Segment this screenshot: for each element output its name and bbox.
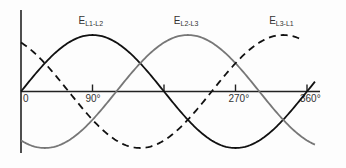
x-tick-label: 90° [86, 93, 101, 104]
x-tick-label: 360° [300, 93, 321, 104]
three-phase-waveform-diagram: 090°270°360° EL1-L2EL2-L3EL3-L1 [0, 0, 346, 168]
series-label: EL1-L2 [79, 15, 104, 27]
series-label: EL3-L1 [269, 15, 294, 27]
x-tick-label: 270° [229, 93, 250, 104]
x-tick-label: 0 [23, 93, 29, 104]
series-label: EL2-L3 [174, 15, 199, 27]
